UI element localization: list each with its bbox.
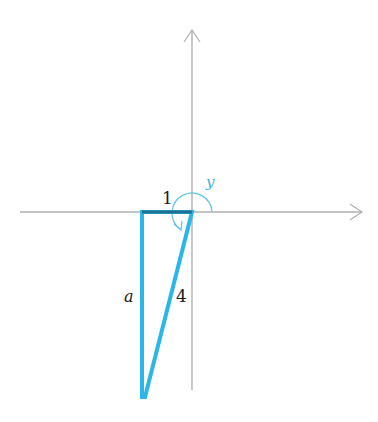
label-angle: y xyxy=(205,173,215,191)
diagram-canvas: 1 a 4 y xyxy=(0,0,378,422)
label-hypotenuse: 4 xyxy=(176,286,187,306)
arc-arrowhead-icon xyxy=(174,221,182,230)
label-horizontal-leg: 1 xyxy=(162,188,173,208)
label-vertical-leg: a xyxy=(124,287,134,306)
